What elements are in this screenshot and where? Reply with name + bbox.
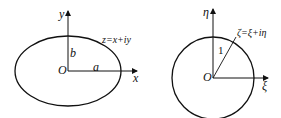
xi-axis-label: ξ [262, 80, 267, 92]
eta-axis-label: η [203, 6, 209, 18]
right-diagram [172, 9, 268, 118]
origin-label-left: O [58, 64, 67, 76]
y-axis-label: y [59, 8, 64, 20]
x-axis-label: x [133, 72, 138, 84]
figure-graphics [0, 0, 281, 118]
radius-label: 1 [218, 45, 224, 56]
semi-minor-label: b [70, 47, 76, 59]
left-diagram [15, 11, 137, 106]
radius-line [213, 37, 236, 78]
semi-major-label: a [93, 61, 99, 73]
origin-label-right: O [203, 71, 212, 83]
conformal-mapping-figure: y z=x+iy b O a x η ζ=ξ+iη 1 O ξ [0, 0, 281, 118]
zeta-plane-label: ζ=ξ+iη [237, 28, 267, 38]
z-plane-label: z=x+iy [102, 35, 131, 45]
